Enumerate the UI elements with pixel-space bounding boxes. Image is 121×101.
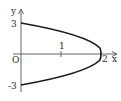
y-tick-label-neg3: -3: [8, 81, 17, 91]
y-axis-label: y: [10, 6, 17, 16]
parabola-diagram: y 3 O 1 2 x -3: [0, 0, 121, 101]
y-tick-label-3: 3: [11, 19, 17, 29]
x-tick-label-1: 1: [59, 41, 65, 51]
x-tick-label-2: 2: [102, 54, 108, 64]
x-axis-label: x: [112, 54, 117, 64]
origin-label: O: [12, 55, 19, 65]
